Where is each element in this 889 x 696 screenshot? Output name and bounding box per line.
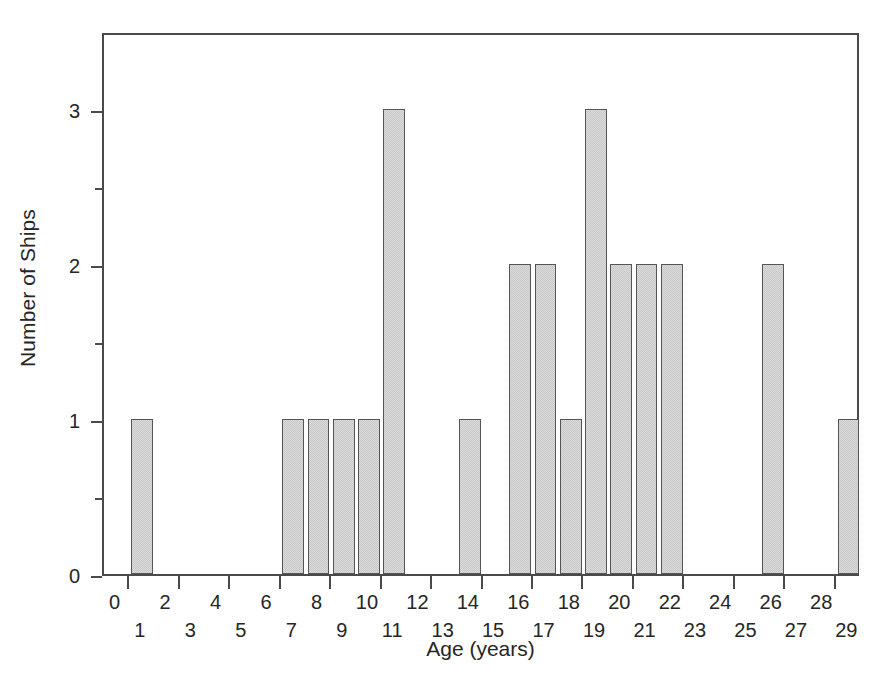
bar — [509, 264, 531, 574]
y-tick-major — [91, 576, 102, 578]
y-tick-label: 3 — [50, 99, 80, 122]
x-tick — [783, 576, 785, 589]
bar — [459, 419, 481, 574]
y-tick-major — [91, 266, 102, 268]
x-tick — [228, 576, 230, 589]
y-tick-major — [91, 421, 102, 423]
bar — [535, 264, 557, 574]
x-tick — [632, 576, 634, 589]
bar — [131, 419, 153, 574]
bar — [333, 419, 355, 574]
bar-series — [104, 35, 857, 574]
y-tick-minor — [95, 498, 102, 500]
x-tick-label-even: 28 — [801, 591, 841, 614]
x-tick-label-even: 20 — [599, 591, 639, 614]
y-tick-minor — [95, 343, 102, 345]
bar — [636, 264, 658, 574]
bar — [560, 419, 582, 574]
x-tick-label-even: 16 — [498, 591, 538, 614]
x-tick — [178, 576, 180, 589]
x-tick-label-even: 14 — [448, 591, 488, 614]
x-tick-label-even: 6 — [246, 591, 286, 614]
x-tick-label-even: 12 — [397, 591, 437, 614]
x-tick-label-even: 18 — [549, 591, 589, 614]
bar — [585, 109, 607, 574]
y-axis: 0123 — [0, 33, 102, 576]
bar — [661, 264, 683, 574]
x-tick — [127, 576, 129, 589]
x-tick-label-even: 24 — [700, 591, 740, 614]
bar — [610, 264, 632, 574]
bar — [762, 264, 784, 574]
x-tick — [682, 576, 684, 589]
x-tick-label-even: 8 — [296, 591, 336, 614]
x-tick — [279, 576, 281, 589]
x-tick — [531, 576, 533, 589]
x-tick-label-even: 2 — [145, 591, 185, 614]
y-tick-minor — [95, 188, 102, 190]
bar — [838, 419, 860, 574]
histogram-figure: Number of Ships 0123 0246810121416182022… — [0, 0, 889, 696]
x-tick — [329, 576, 331, 589]
x-tick — [380, 576, 382, 589]
x-tick — [581, 576, 583, 589]
y-tick-major — [91, 111, 102, 113]
y-tick-label: 0 — [50, 565, 80, 588]
x-axis-title: Age (years) — [102, 637, 859, 661]
x-tick-label-even: 4 — [196, 591, 236, 614]
plot-area — [102, 33, 859, 576]
x-axis: 0246810121416182022242628135791113151719… — [102, 576, 859, 636]
y-tick-label: 1 — [50, 409, 80, 432]
bar — [282, 419, 304, 574]
x-tick-label-even: 22 — [650, 591, 690, 614]
y-tick-label: 2 — [50, 254, 80, 277]
bar — [308, 419, 330, 574]
x-tick — [834, 576, 836, 589]
x-tick — [430, 576, 432, 589]
x-tick-label-even: 10 — [347, 591, 387, 614]
x-tick — [481, 576, 483, 589]
bar — [358, 419, 380, 574]
x-tick — [733, 576, 735, 589]
bar — [383, 109, 405, 574]
x-tick-label-even: 26 — [751, 591, 791, 614]
x-tick-label-even: 0 — [95, 591, 135, 614]
